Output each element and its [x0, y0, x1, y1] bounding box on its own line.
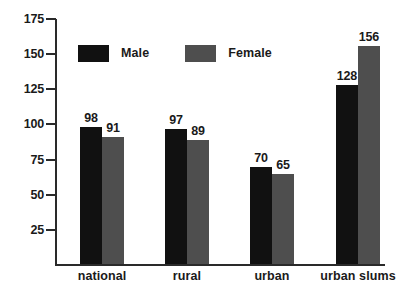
- bar-value-label: 91: [95, 122, 131, 135]
- bar-value-label: 156: [351, 31, 387, 44]
- legend-swatch-male: [78, 45, 109, 62]
- bar-national-male: [80, 127, 102, 265]
- legend-swatch-female: [185, 45, 216, 62]
- legend-item-male: Male: [78, 45, 149, 62]
- bar-national-female: [102, 137, 124, 265]
- bar-rural-male: [165, 129, 187, 265]
- chart-legend: MaleFemale: [78, 45, 272, 62]
- bar-urban-slums-male: [336, 85, 358, 265]
- bar-rural-female: [187, 140, 209, 265]
- bar-value-label: 89: [180, 125, 216, 138]
- x-axis-label-urban-slums: urban slums: [303, 270, 408, 284]
- x-axis-line: [55, 264, 385, 266]
- bar-urban-male: [250, 167, 272, 265]
- legend-label: Female: [228, 47, 272, 60]
- bar-urban-female: [272, 174, 294, 265]
- legend-item-female: Female: [185, 45, 272, 62]
- bar-value-label: 65: [265, 159, 301, 172]
- bar-chart: 175150125100755025 989197897065128156 na…: [0, 0, 408, 298]
- legend-label: Male: [121, 47, 149, 60]
- bar-urban-slums-female: [358, 46, 380, 265]
